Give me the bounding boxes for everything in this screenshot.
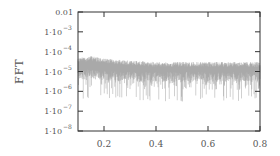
y-tick-label: 1·10	[44, 68, 62, 77]
y-tick-exponent: −7	[63, 103, 72, 110]
y-tick-exponent: −8	[63, 123, 72, 130]
fft-signal-trace	[78, 56, 260, 101]
y-axis-label: FFT	[8, 60, 32, 84]
y-tick-exponent: −3	[63, 24, 72, 31]
y-tick-exponent: −4	[63, 44, 72, 51]
y-tick-label: 1·10	[44, 107, 62, 116]
fft-chart: 0.20.40.60.8 0.011·10−31·10−41·10−51·10−…	[0, 0, 280, 156]
y-tick-label: 1·10	[44, 28, 62, 37]
x-tick-label: 0.4	[149, 139, 164, 149]
y-tick-label: 1·10	[44, 87, 62, 96]
y-tick-label: 1·10	[44, 127, 62, 136]
fft-series-path	[78, 56, 260, 101]
x-tick-label: 0.6	[201, 139, 216, 149]
y-tick-label: 1·10	[44, 48, 62, 57]
y-tick-exponent: −6	[63, 83, 72, 90]
y-tick-exponent: −5	[63, 64, 72, 71]
x-tick-label: 0.2	[97, 139, 111, 149]
x-tick-label: 0.8	[253, 139, 268, 149]
y-tick-label: 0.01	[55, 8, 73, 17]
